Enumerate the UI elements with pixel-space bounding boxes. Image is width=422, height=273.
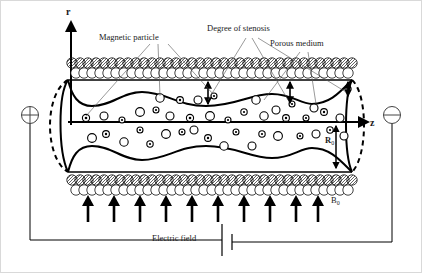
figure-canvas: r z <box>0 0 422 273</box>
porous-medium-band-bottom <box>67 175 357 195</box>
circle-minus-icon <box>384 107 401 124</box>
r-axis-label: r <box>66 6 71 17</box>
z-axis-label: z <box>370 117 375 128</box>
porous-medium-label: Porous medium <box>270 38 324 48</box>
electric-field-label: Electric field <box>152 233 197 243</box>
magnetic-particle-label: Magnetic particle <box>99 32 159 42</box>
porous-medium-band-top <box>67 58 357 78</box>
degree-of-stenosis-label: Degree of stenosis <box>207 23 270 33</box>
circle-plus-icon <box>22 107 39 124</box>
